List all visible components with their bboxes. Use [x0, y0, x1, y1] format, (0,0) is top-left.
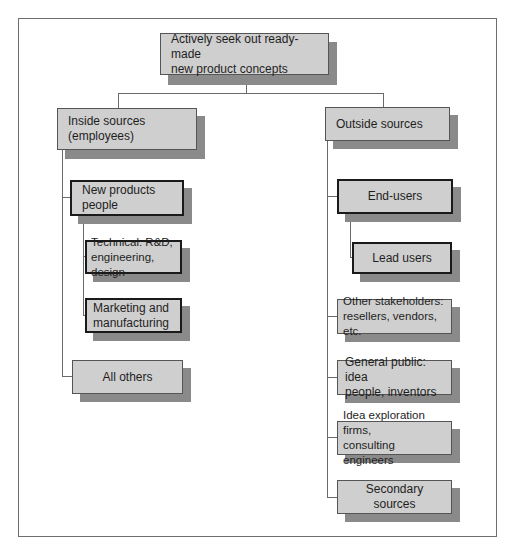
marketing-node: Marketing and manufacturing: [85, 298, 182, 333]
general-public-node: General public: idea people, inventors: [337, 360, 452, 395]
connector-right-down: [383, 93, 384, 107]
new-products-node: New products people: [70, 180, 184, 216]
right-branch-secondary: [327, 497, 337, 498]
right-branch-stakeholders: [327, 316, 337, 317]
technical-node: Technical: R&D, engineering, design: [85, 240, 182, 274]
connector-horizontal: [118, 93, 384, 94]
end-users-node: End-users: [337, 179, 453, 214]
lead-users-node: Lead users: [352, 242, 452, 274]
inside-sources-node: Inside sources (employees): [57, 108, 197, 150]
left-subtrunk: [83, 215, 84, 315]
right-branch-public: [327, 377, 337, 378]
stakeholders-node: Other stakeholders: resellers, vendors, …: [337, 299, 452, 334]
root-node: Actively seek out ready-made new product…: [160, 33, 329, 75]
right-branch-ideafirms: [327, 437, 337, 438]
left-branch-allothers: [62, 376, 72, 377]
outside-sources-node: Outside sources: [325, 107, 450, 141]
connector-left-down: [118, 93, 119, 108]
idea-firms-node: Idea exploration firms, consulting engin…: [337, 421, 452, 455]
secondary-sources-node: Secondary sources: [337, 480, 452, 514]
left-branch-newproducts: [62, 197, 70, 198]
left-trunk: [62, 150, 63, 377]
all-others-node: All others: [72, 360, 183, 394]
right-branch-endusers: [327, 196, 337, 197]
right-trunk: [327, 140, 328, 498]
